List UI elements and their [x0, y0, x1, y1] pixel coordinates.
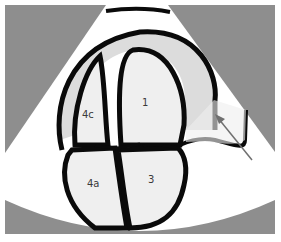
label-4a: 4a — [87, 178, 100, 189]
label-3: 3 — [148, 174, 154, 185]
label-4c: 4c — [82, 109, 94, 120]
ultrasound-diagram: 4c 1 4a 3 — [0, 0, 281, 242]
label-1: 1 — [142, 97, 148, 108]
